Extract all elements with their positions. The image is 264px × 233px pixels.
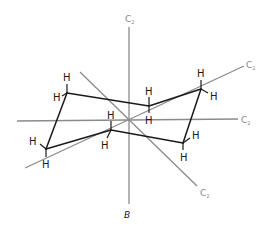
c2-axis-lower-diagonal [80,72,197,186]
atom-h11: H [29,136,37,147]
atom-h9: H [107,110,115,121]
bond-b-c [149,89,201,106]
axis-label-horizontal: C2 [241,115,250,126]
atom-h12: H [42,159,50,170]
atom-h2: H [53,92,61,103]
atom-h6: H [210,91,218,102]
bond-a-b [67,93,149,106]
figure-caption: B [124,210,130,220]
ch-bonds [40,80,208,157]
bond-d-e [111,130,183,143]
axis-label-vertical: C2 [125,14,134,25]
atom-h3: H [145,86,153,97]
atom-h4: H [145,115,153,126]
atom-h5: H [197,68,205,79]
atom-h10: H [101,140,109,151]
axis-label-lower-diagonal: C2 [200,188,209,199]
atom-h7: H [192,130,200,141]
axis-label-upper-diagonal: C2 [246,60,255,71]
atom-h8: H [180,152,188,163]
symmetry-axes [17,27,244,204]
twist-boat-symmetry-diagram: C2 C2 C2 C2 H H H H H H H H H H H [0,0,264,233]
atom-h1: H [63,72,71,83]
